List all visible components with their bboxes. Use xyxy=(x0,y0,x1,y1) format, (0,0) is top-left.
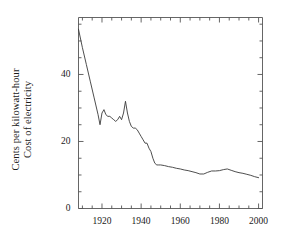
axis-ticks xyxy=(79,18,263,209)
x-tick-label: 1960 xyxy=(171,217,190,227)
x-tick-label: 1920 xyxy=(93,217,112,227)
data-series-line xyxy=(79,29,259,177)
y-tick-label: 40 xyxy=(0,70,71,80)
chart-figure: Cost of electricity Cents per kilowatt-h… xyxy=(0,0,282,239)
x-tick-label: 1940 xyxy=(132,217,151,227)
x-tick-label: 2000 xyxy=(249,217,268,227)
y-tick-label: 0 xyxy=(0,204,71,214)
plot-frame xyxy=(79,18,263,209)
x-tick-label: 1980 xyxy=(210,217,229,227)
y-tick-label: 20 xyxy=(0,137,71,147)
